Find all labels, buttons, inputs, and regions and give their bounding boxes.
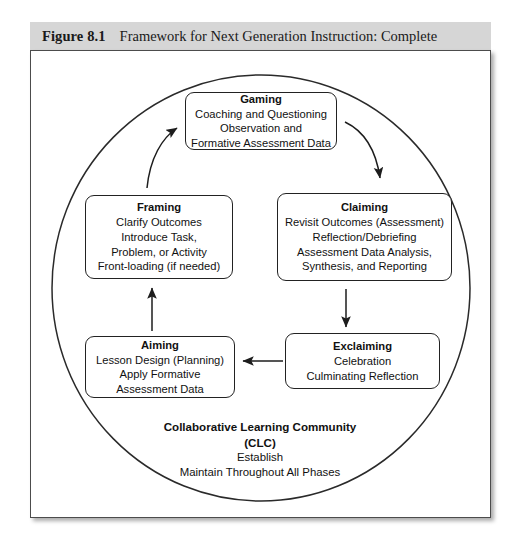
phase-line: Celebration [334,354,391,369]
phase-line: Front-loading (if needed) [98,259,221,274]
figure-title: Framework for Next Generation Instructio… [120,28,438,45]
clc-line: Maintain Throughout All Phases [110,465,410,480]
phase-line: Synthesis, and Reporting [302,259,427,274]
clc-line: Establish [110,450,410,465]
phase-line: Observation and [220,121,302,136]
phase-line: Lesson Design (Planning) [96,353,224,368]
phase-box-aiming: Aiming Lesson Design (Planning) Apply Fo… [85,336,235,398]
phase-box-gaming: Gaming Coaching and Questioning Observat… [185,92,337,150]
phase-line: Revisit Outcomes (Assessment) [285,215,444,230]
figure-caption: Figure 8.1 Framework for Next Generation… [30,22,491,50]
phase-title-framing: Framing [137,200,181,215]
clc-text-block: Collaborative Learning Community (CLC) E… [110,419,410,480]
phase-title-aiming: Aiming [141,338,179,353]
phase-box-claiming: Claiming Revisit Outcomes (Assessment) R… [277,193,452,281]
phase-line: Introduce Task, [121,230,197,245]
phase-line: Formative Assessment Data [191,136,331,151]
phase-box-exclaiming: Exclaiming Celebration Culminating Refle… [285,333,440,389]
phase-box-framing: Framing Clarify Outcomes Introduce Task,… [85,195,233,279]
clc-title-line-1: Collaborative Learning Community [110,419,410,435]
phase-line: Coaching and Questioning [195,107,327,122]
phase-title-exclaiming: Exclaiming [333,339,392,354]
phase-title-gaming: Gaming [240,92,282,107]
phase-line: Clarify Outcomes [116,215,202,230]
phase-line: Apply Formative [120,367,201,382]
phase-line: Assessment Data Analysis, [297,245,432,260]
phase-line: Reflection/Debriefing [313,230,417,245]
figure-number: Figure 8.1 [42,28,106,45]
figure-root: Figure 8.1 Framework for Next Generation… [0,0,521,558]
phase-line: Culminating Reflection [307,369,419,384]
phase-title-claiming: Claiming [341,200,388,215]
phase-line: Problem, or Activity [111,245,207,260]
phase-line: Assessment Data [116,382,204,397]
clc-title-line-2: (CLC) [110,435,410,451]
